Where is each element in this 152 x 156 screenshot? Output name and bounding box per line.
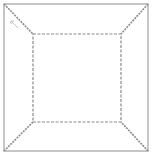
diagram-canvas <box>0 0 152 156</box>
perspective-box-diagram <box>0 0 152 156</box>
diagonal-bottom-left <box>4 122 33 151</box>
arrow-icon <box>11 21 18 28</box>
inner-square <box>33 34 121 122</box>
diagonal-bottom-right <box>121 122 148 151</box>
diagonal-top-left <box>4 4 33 34</box>
diagonal-top-right <box>121 4 148 34</box>
corner-diagonals <box>4 4 148 151</box>
